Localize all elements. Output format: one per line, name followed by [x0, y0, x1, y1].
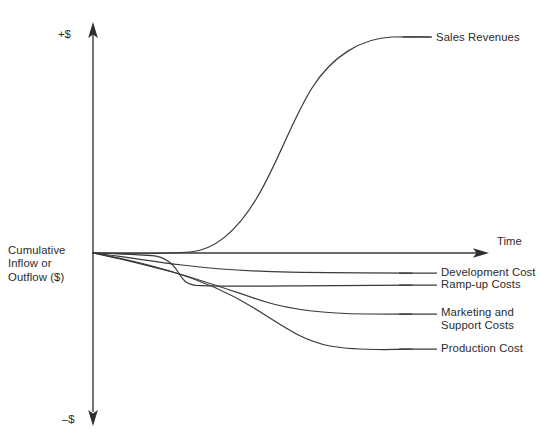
- series-label-production-cost: Production Cost: [441, 342, 523, 355]
- y-axis-negative-label: –$: [62, 413, 75, 426]
- series-label-rampup-costs: Ramp-up Costs: [441, 278, 521, 291]
- y-axis-positive-label: +$: [58, 28, 71, 41]
- axes-group: [88, 22, 489, 426]
- curve-sales-revenues: [93, 37, 430, 254]
- series-curves-group: [93, 37, 430, 350]
- curve-rampup-costs: [93, 253, 412, 286]
- cumulative-cashflow-chart: Cumulative Inflow or Outflow ($) +$ –$ T…: [0, 0, 551, 443]
- chart-canvas: [0, 0, 551, 443]
- curve-marketing-support-costs: [93, 253, 412, 314]
- y-axis-label: Cumulative Inflow or Outflow ($): [8, 244, 88, 284]
- series-label-marketing-support-costs: Marketing and Support Costs: [441, 306, 514, 333]
- curve-production-cost: [93, 253, 412, 350]
- y-axis-down-arrow-icon: [88, 410, 98, 426]
- leader-lines-group: [399, 37, 437, 349]
- series-label-sales-revenues: Sales Revenues: [436, 31, 520, 44]
- x-axis-label: Time: [497, 235, 522, 248]
